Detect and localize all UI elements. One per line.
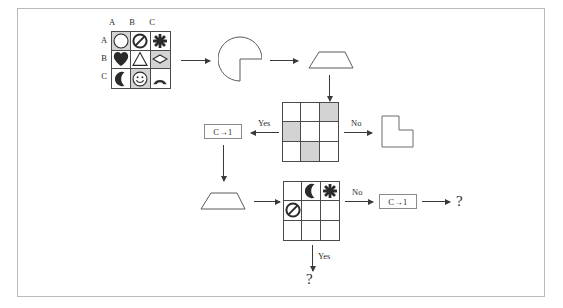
diagram-canvas: A B C A B C Yes C→1	[0, 0, 563, 308]
arrow-trapezoid-to-grid2	[329, 75, 330, 101]
rule-box-top[interactable]: C→1	[204, 124, 242, 139]
pacman-shape	[218, 36, 262, 82]
empty-cell[interactable]	[283, 122, 301, 141]
triangle-icon	[132, 51, 148, 67]
shading-pattern-grid[interactable]	[282, 102, 339, 162]
empty-cell[interactable]	[283, 103, 301, 122]
partial-symbol-grid[interactable]	[283, 181, 340, 241]
no-entry-icon-cell[interactable]	[284, 201, 302, 220]
triangle-icon-cell[interactable]	[131, 51, 150, 70]
empty-cell[interactable]	[320, 122, 338, 141]
smiley-face-icon	[132, 71, 148, 87]
l-shape	[380, 114, 416, 150]
label-no-top: No	[351, 118, 361, 128]
arrow-grid3-no	[345, 201, 373, 202]
empty-cell[interactable]	[320, 142, 338, 161]
empty-cell[interactable]	[301, 103, 319, 122]
empty-cell[interactable]	[320, 103, 338, 122]
crescent-moon-icon-cell[interactable]	[302, 182, 320, 201]
arrow-rulebox-to-output	[422, 201, 450, 202]
arc-icon-cell[interactable]	[151, 69, 170, 88]
sparkle-icon	[322, 183, 338, 199]
label-yes-bottom: Yes	[318, 251, 330, 261]
trapezoid-shape-top	[307, 49, 355, 71]
arrow-grid2-no	[344, 132, 372, 133]
heart-icon-cell[interactable]	[112, 51, 131, 70]
output-bottom: ?	[306, 271, 313, 288]
no-entry-icon	[285, 202, 301, 218]
sparkle-icon-cell[interactable]	[151, 32, 170, 51]
arrow-rulebox-to-trapezoid2	[223, 145, 224, 181]
output-right: ?	[456, 193, 463, 210]
grid1-col-label-c: C	[143, 17, 161, 27]
crescent-moon-icon-cell[interactable]	[112, 69, 131, 88]
arrow-pacman-to-trapezoid	[270, 60, 298, 61]
empty-cell[interactable]	[302, 201, 320, 220]
arrow-grid3-yes	[312, 245, 313, 271]
diagram-frame: A B C A B C Yes C→1	[17, 8, 545, 297]
circle-icon	[113, 33, 129, 49]
grid1-col-label-b: B	[123, 17, 141, 27]
grid1-row-label-c: C	[99, 71, 109, 81]
empty-cell[interactable]	[321, 201, 339, 220]
rule-box-bottom[interactable]: C→1	[379, 194, 417, 209]
label-yes-top: Yes	[258, 118, 270, 128]
symbol-grid[interactable]	[111, 31, 171, 89]
label-no-bottom: No	[352, 187, 362, 197]
grid1-col-label-a: A	[103, 17, 121, 27]
grid1-row-label-a: A	[99, 35, 109, 45]
crescent-moon-icon	[113, 71, 129, 87]
sparkle-icon-cell[interactable]	[321, 182, 339, 201]
smiley-face-icon-cell[interactable]	[131, 69, 150, 88]
heart-icon	[113, 51, 129, 67]
empty-cell[interactable]	[321, 221, 339, 240]
empty-cell[interactable]	[301, 122, 319, 141]
no-entry-icon	[132, 33, 148, 49]
arrow-trapezoid2-to-grid3	[254, 201, 280, 202]
trapezoid-shape-bottom	[199, 190, 247, 212]
empty-cell[interactable]	[283, 142, 301, 161]
empty-cell[interactable]	[284, 221, 302, 240]
no-entry-icon-cell[interactable]	[131, 32, 150, 51]
circle-icon-cell[interactable]	[112, 32, 131, 51]
arrow-grid2-yes	[251, 132, 279, 133]
empty-cell[interactable]	[302, 221, 320, 240]
grid1-row-label-b: B	[99, 53, 109, 63]
sparkle-icon	[152, 33, 168, 49]
arc-icon	[152, 71, 168, 87]
diamond-icon-cell[interactable]	[151, 51, 170, 70]
arrow-grid1-to-pacman	[181, 60, 210, 61]
diamond-icon	[152, 51, 168, 67]
empty-cell[interactable]	[301, 142, 319, 161]
crescent-moon-icon	[303, 183, 319, 199]
empty-cell[interactable]	[284, 182, 302, 201]
